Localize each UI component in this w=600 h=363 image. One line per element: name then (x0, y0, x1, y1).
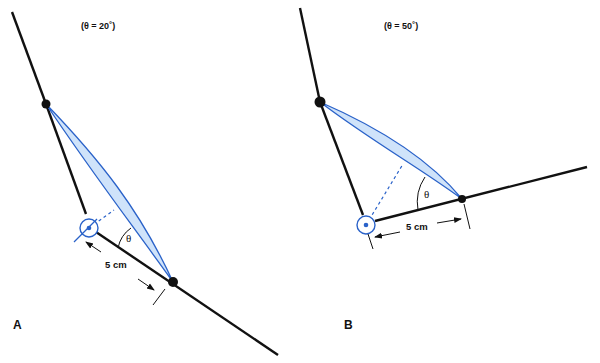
distance-arrow-upper-a (86, 242, 101, 252)
distal-segment-b (375, 167, 587, 221)
distance-label-b: 5 cm (406, 221, 428, 232)
origin-dot-a (42, 100, 51, 109)
insertion-dot-b (458, 195, 466, 203)
distance-arrow-right-b (437, 219, 461, 223)
tick-a (153, 289, 165, 305)
angle-caption-b: (θ = 50˚) (384, 21, 418, 31)
panel-a-diagram (12, 12, 278, 355)
tick-joint-b (368, 234, 373, 249)
origin-dot-b (315, 97, 326, 108)
theta-symbol-b: θ (424, 188, 429, 200)
muscle-a (46, 104, 173, 282)
diagram-canvas (0, 0, 600, 363)
distance-arrow-lower-a (138, 279, 154, 290)
distance-arrow-left-b (375, 232, 400, 237)
muscle-b (320, 102, 462, 199)
panel-b-diagram (300, 8, 587, 249)
proximal-segment-a (12, 12, 46, 104)
insertion-dot-a (168, 277, 178, 287)
panel-label-b: B (344, 318, 353, 332)
proximal-segment-lower-a (46, 104, 86, 214)
theta-symbol-a: θ (126, 232, 131, 244)
angle-caption-a: (θ = 20˚) (81, 21, 115, 31)
joint-center-a (87, 226, 92, 231)
panel-label-a: A (13, 318, 22, 332)
distal-segment-a (96, 232, 278, 355)
distance-label-a: 5 cm (105, 259, 127, 270)
tick-insertion-b (464, 204, 470, 229)
proximal-segment-b (300, 8, 320, 102)
joint-center-b (364, 223, 369, 228)
